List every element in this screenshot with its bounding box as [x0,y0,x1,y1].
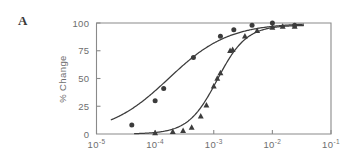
data-point-triangles-6 [211,83,217,89]
y-tick-label-2: 50 [78,73,89,84]
x-tick-label-4: 10-1 [322,138,340,150]
plot-frame [97,23,332,134]
data-point-circles-4 [218,34,223,39]
data-point-circles-2 [161,86,166,91]
x-axis-ticks [97,130,332,134]
y-axis-tick-labels: 0255075100 [72,18,89,140]
data-point-triangles-2 [180,127,186,133]
data-point-circles-6 [250,23,255,28]
data-point-circles-0 [129,123,134,128]
x-tick-label-3: 10-2 [263,138,281,150]
y-axis-ticks [97,23,101,106]
data-point-circles-3 [191,55,196,60]
x-axis-tick-labels: 10-510-410-310-210-1 [88,138,340,150]
data-point-triangles-4 [198,113,204,119]
y-axis-title: % Change [57,55,68,103]
y-tick-label-4: 100 [72,18,89,29]
data-point-triangles-11 [242,33,248,39]
axis-frame [97,23,332,134]
series-curves [111,24,303,133]
x-tick-label-2: 10-3 [205,138,223,150]
y-tick-label-0: 0 [84,129,90,140]
y-tick-label-1: 25 [78,101,89,112]
x-tick-label-0: 10-5 [88,138,106,150]
data-point-circles-5 [231,27,236,32]
figure-panel-a: A 10-510-410-310-210-1 0255075100 % Chan… [0,0,350,157]
series-markers [129,21,297,136]
data-point-triangles-3 [189,124,195,130]
data-point-circles-1 [153,98,158,103]
y-tick-label-3: 75 [78,45,89,56]
dose-response-chart: 10-510-410-310-210-1 0255075100 % Change [0,0,350,157]
x-tick-label-1: 10-4 [146,138,164,150]
